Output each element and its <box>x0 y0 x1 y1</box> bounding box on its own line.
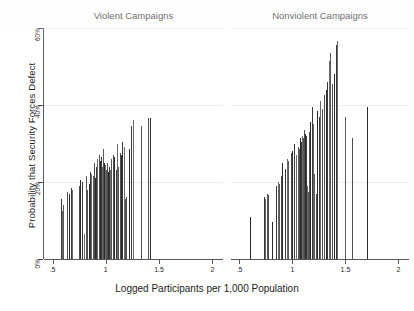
x-tick-mark <box>292 259 293 264</box>
x-tick-label: 2 <box>388 266 408 273</box>
x-tick-label: 1.5 <box>335 266 355 273</box>
y-tick-label: 40% <box>33 105 43 135</box>
x-tick-mark <box>398 259 399 264</box>
y-tick-label: 20% <box>33 182 43 212</box>
y-axis-title: Probability that Security Forces Defect <box>26 21 37 271</box>
y-tick-mark <box>38 182 43 183</box>
x-axis-title: Logged Participants per 1,000 Population <box>0 283 414 294</box>
figure-canvas: Probability that Security Forces Defect … <box>0 0 414 311</box>
x-tick-mark <box>345 259 346 264</box>
bar <box>288 161 289 259</box>
bar <box>345 117 346 259</box>
bar <box>337 41 338 259</box>
plot-area-nonviolent <box>231 28 409 259</box>
bar <box>268 195 269 259</box>
y-tick-mark <box>38 259 43 260</box>
x-axis-line <box>231 259 409 260</box>
x-tick-label: 1.5 <box>149 266 169 273</box>
bar <box>250 217 251 259</box>
x-tick-mark <box>212 259 213 264</box>
bar <box>352 138 353 259</box>
bar <box>67 192 68 259</box>
bar <box>126 197 127 259</box>
bar <box>332 84 333 259</box>
x-tick-label: 1 <box>96 266 116 273</box>
panel-title-nonviolent: Nonviolent Campaigns <box>231 10 409 21</box>
bar <box>282 163 283 259</box>
bar <box>292 151 293 259</box>
bar <box>82 182 83 259</box>
bar <box>63 205 64 259</box>
y-tick-mark <box>38 28 43 29</box>
x-tick-label: 1 <box>282 266 302 273</box>
x-tick-label: 2 <box>202 266 222 273</box>
bar <box>141 126 142 259</box>
x-tick-label: .5 <box>229 266 249 273</box>
x-tick-mark <box>239 259 240 264</box>
y-tick-label: 60% <box>33 28 43 58</box>
plot-area-violent <box>44 28 223 259</box>
panel-title-violent: Violent Campaigns <box>44 10 223 21</box>
bar <box>72 190 73 259</box>
x-tick-mark <box>106 259 107 264</box>
bar <box>367 107 368 259</box>
bar <box>272 222 273 259</box>
bar <box>129 149 130 259</box>
y-tick-mark <box>38 105 43 106</box>
x-tick-label: .5 <box>43 266 63 273</box>
x-tick-mark <box>159 259 160 264</box>
bar <box>150 118 151 259</box>
bar <box>133 120 134 259</box>
x-tick-mark <box>53 259 54 264</box>
bar <box>265 199 266 259</box>
bar <box>334 74 335 259</box>
x-axis-line <box>44 259 223 260</box>
